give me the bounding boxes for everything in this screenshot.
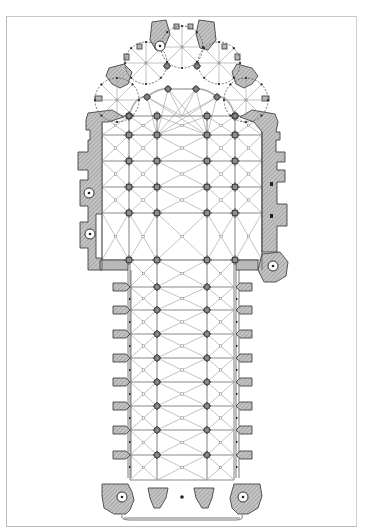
cathedral-floor-plan: [0, 0, 370, 530]
west-facade: [102, 484, 262, 520]
chevet-walls: [78, 20, 288, 282]
